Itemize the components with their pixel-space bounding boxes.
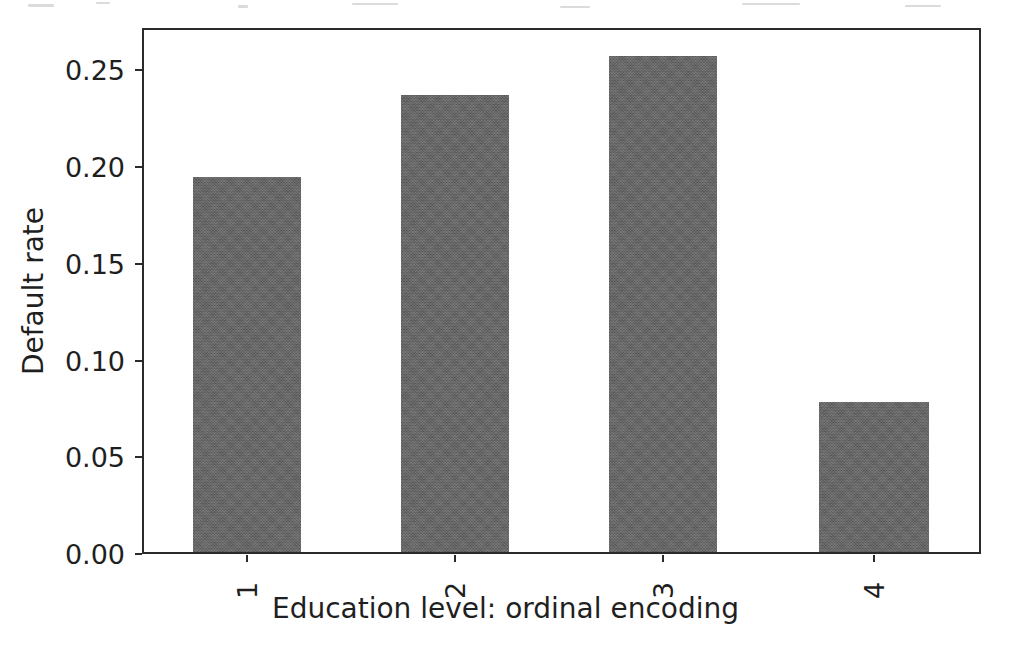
scan-artifact — [28, 4, 54, 7]
x-tick-mark-1 — [246, 555, 248, 562]
scan-artifact — [352, 3, 398, 5]
y-tick-label-5: 0.25 — [30, 55, 125, 86]
y-axis-label: Default rate — [17, 207, 50, 375]
scan-artifact — [96, 2, 110, 4]
y-tick-label-0: 0.00 — [30, 539, 125, 570]
bar-3 — [609, 56, 717, 552]
scan-artifact — [742, 3, 800, 5]
scan-artifact — [560, 6, 590, 8]
bar-4 — [819, 402, 929, 552]
y-tick-mark-5 — [135, 69, 142, 71]
y-tick-mark-4 — [135, 166, 142, 168]
bar-chart-figure: 0.00 0.05 0.10 0.15 0.20 0.25 1 2 3 4 Ed… — [0, 0, 1011, 653]
scan-artifact — [238, 5, 248, 8]
y-tick-mark-0 — [135, 553, 142, 555]
y-tick-label-1: 0.05 — [30, 442, 125, 473]
scan-artifact — [905, 5, 941, 7]
bar-2 — [401, 95, 509, 552]
y-tick-mark-1 — [135, 456, 142, 458]
plot-area — [142, 28, 981, 554]
x-tick-mark-3 — [662, 555, 664, 562]
y-tick-mark-2 — [135, 360, 142, 362]
x-tick-mark-2 — [454, 555, 456, 562]
y-tick-label-4: 0.20 — [30, 152, 125, 183]
y-tick-mark-3 — [135, 263, 142, 265]
x-tick-mark-4 — [873, 555, 875, 562]
bar-1 — [193, 177, 301, 552]
x-axis-label: Education level: ordinal encoding — [0, 592, 1011, 625]
